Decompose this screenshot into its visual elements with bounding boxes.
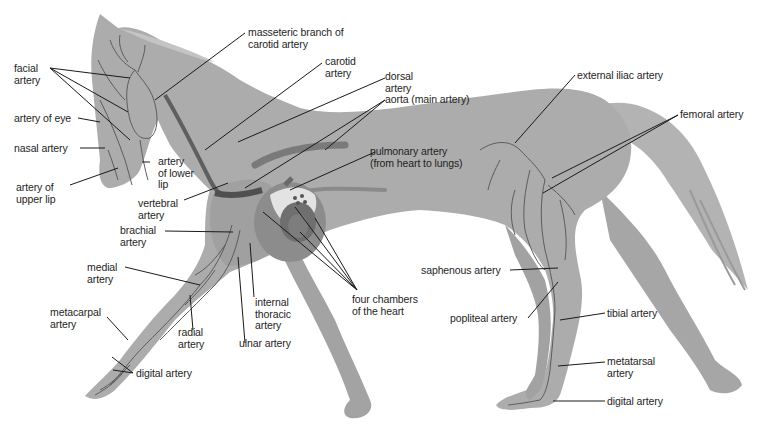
label-medial-artery: medial artery [87, 262, 117, 285]
label-radial-artery: radial artery [178, 327, 204, 350]
label-saphenous-artery: saphenous artery [421, 265, 501, 277]
label-digital-artery-hind: digital artery [607, 396, 663, 408]
label-pulmonary-artery: pulmonary artery (from heart to lungs) [370, 146, 462, 169]
label-ulnar-artery: ulnar artery [239, 338, 291, 350]
label-artery-of-lower-lip: artery of lower lip [158, 156, 194, 191]
horse-artery-diagram: facial artery artery of eye nasal artery… [0, 0, 760, 435]
label-four-chambers: four chambers of the heart [352, 294, 418, 317]
label-nasal-artery: nasal artery [14, 143, 68, 155]
label-brachial-artery: brachial artery [120, 225, 156, 248]
label-popliteal-artery: popliteal artery [450, 313, 517, 325]
label-masseteric-branch: masseteric branch of carotid artery [248, 27, 343, 50]
label-artery-of-upper-lip: artery of upper lip [16, 182, 55, 205]
label-facial-artery: facial artery [14, 63, 40, 86]
label-metacarpal-artery: metacarpal artery [50, 307, 101, 330]
label-metatarsal-artery: metatarsal artery [607, 356, 655, 379]
label-vertebral-artery: vertebral artery [138, 198, 178, 221]
label-dorsal-artery: dorsal artery [385, 71, 413, 94]
label-aorta: aorta (main artery) [385, 94, 469, 106]
label-femoral-artery: femoral artery [680, 109, 743, 121]
label-external-iliac-artery: external iliac artery [577, 70, 663, 82]
label-digital-artery-front: digital artery [136, 368, 192, 380]
label-tibial-artery: tibial artery [607, 308, 657, 320]
label-internal-thoracic-artery: internal thoracic artery [255, 297, 291, 332]
label-carotid-artery: carotid artery [325, 56, 356, 79]
label-artery-of-eye: artery of eye [14, 113, 71, 125]
